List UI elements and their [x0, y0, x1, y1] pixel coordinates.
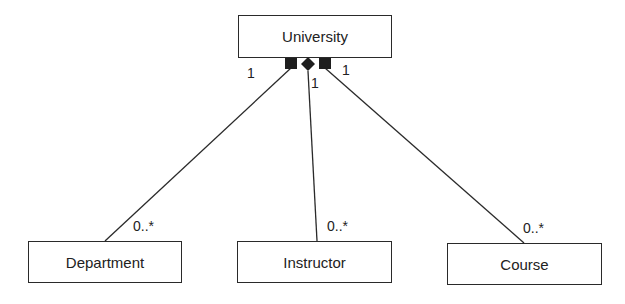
association-line-course [325, 68, 524, 243]
composition-marker-square-icon [285, 58, 297, 69]
multiplicity-instructor-whole: 1 [311, 76, 319, 90]
class-box-course: Course [447, 243, 602, 285]
class-name: Department [66, 254, 144, 271]
multiplicity-department-whole: 1 [247, 66, 255, 80]
class-name: Instructor [283, 254, 346, 271]
class-name: University [282, 28, 348, 45]
multiplicity-course-part: 0..* [523, 221, 544, 235]
class-box-instructor: Instructor [237, 241, 392, 283]
class-box-university: University [238, 15, 392, 58]
multiplicity-instructor-part: 0..* [327, 219, 348, 233]
association-line-department [105, 68, 291, 241]
class-box-department: Department [28, 241, 182, 283]
multiplicity-course-whole: 1 [342, 63, 350, 77]
composition-diamond-icon [301, 57, 315, 71]
class-name: Course [500, 256, 548, 273]
association-line-instructor [308, 71, 317, 241]
multiplicity-department-part: 0..* [133, 219, 154, 233]
composition-marker-square-icon [319, 58, 331, 69]
